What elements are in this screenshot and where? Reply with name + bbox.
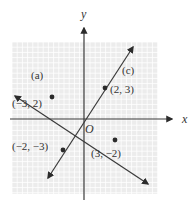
coordinate-plane-figure: y x O (a) (c) (−3, 2) (2, 3) (−2, −3) (3… xyxy=(0,0,196,208)
point-2-3 xyxy=(103,86,108,91)
origin-label: O xyxy=(85,122,94,136)
line-c-label: (c) xyxy=(122,64,135,77)
line-a-label: (a) xyxy=(31,69,44,82)
point-label-2-3: (2, 3) xyxy=(110,83,134,96)
point-label-neg3-2: (−3, 2) xyxy=(12,97,42,110)
x-axis-label: x xyxy=(181,112,188,126)
point-label-neg2-neg3: (−2, −3) xyxy=(12,140,49,153)
point-3-neg2 xyxy=(113,138,118,143)
point-label-3-neg2: (3, −2) xyxy=(91,147,121,160)
y-axis-label: y xyxy=(80,7,87,21)
coordinate-plane-svg: y x O (a) (c) (−3, 2) (2, 3) (−2, −3) (3… xyxy=(0,0,196,208)
point-neg2-neg3 xyxy=(61,148,66,153)
point-neg3-2 xyxy=(50,95,55,100)
